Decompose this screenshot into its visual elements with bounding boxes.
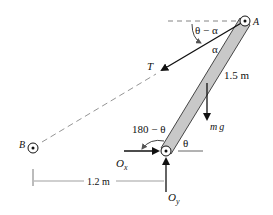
ox-label: Ox [116, 157, 128, 172]
angle-label-theta: θ [183, 137, 188, 149]
point-label-a: A [252, 16, 260, 27]
tension-label: T [147, 60, 154, 72]
angle-label-theta-minus-alpha: θ − α [195, 24, 218, 36]
rigid-body-diagram: θ − α α T 1.5 m mg 180 − θ θ Ox Oy B A 1… [0, 0, 273, 215]
point-label-b: B [19, 139, 25, 150]
distance-label: 1.2 m [87, 176, 110, 187]
bar [161, 18, 250, 154]
oy-label: Oy [168, 191, 180, 206]
angle-label-180-minus-theta: 180 − θ [132, 123, 165, 135]
angle-label-alpha: α [212, 43, 218, 55]
weight-label: mg [210, 121, 224, 132]
length-label: 1.5 m [224, 69, 250, 81]
